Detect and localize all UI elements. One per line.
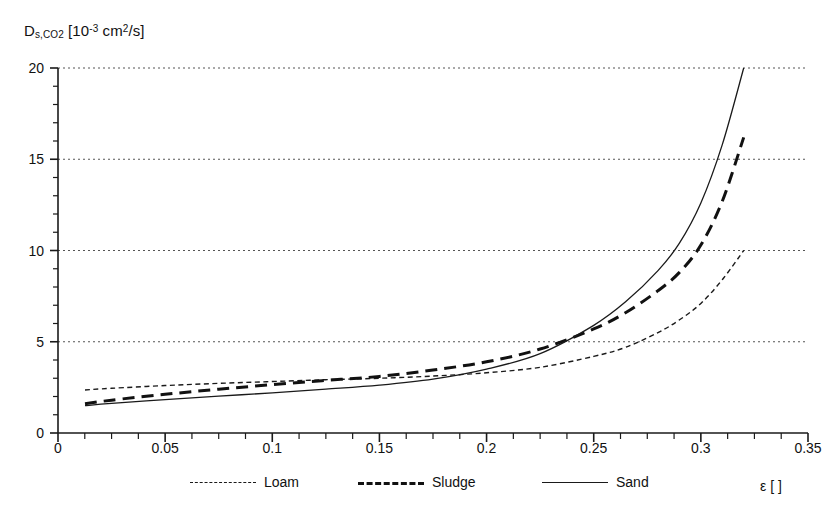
x-tick-label-0.15: 0.15: [366, 440, 393, 456]
chart-legend: Loam Sludge Sand: [190, 470, 660, 498]
x-tick-label-0.05: 0.05: [152, 440, 179, 456]
legend-label-sludge: Sludge: [432, 474, 476, 490]
plot-area: [0, 0, 839, 521]
x-axis-title: ε [ ]: [760, 478, 782, 494]
legend-label-sand: Sand: [616, 474, 649, 490]
x-tick-label-0.3: 0.3: [691, 440, 710, 456]
x-tick-label-0.1: 0.1: [263, 440, 282, 456]
y-tick-label-0: 0: [4, 425, 44, 441]
chart-figure: Ds,CO2 [10-3 cm2/s] 05101520 00.050.10.1…: [0, 0, 839, 521]
x-tick-label-0.25: 0.25: [580, 440, 607, 456]
series-line-loam: [85, 251, 744, 390]
y-tick-label-20: 20: [4, 60, 44, 76]
legend-swatch-loam-icon: [190, 477, 256, 487]
legend-swatch-sand-icon: [542, 477, 608, 487]
legend-item-sand[interactable]: Sand: [542, 470, 649, 494]
x-tick-label-0.35: 0.35: [794, 440, 821, 456]
x-tick-label-0.2: 0.2: [477, 440, 496, 456]
y-tick-label-10: 10: [4, 243, 44, 259]
series-line-sand: [85, 68, 744, 406]
x-tick-label-0: 0: [54, 440, 62, 456]
series-line-sludge: [85, 137, 744, 403]
y-tick-label-5: 5: [4, 334, 44, 350]
legend-label-loam: Loam: [264, 474, 299, 490]
y-tick-label-15: 15: [4, 151, 44, 167]
legend-swatch-sludge-icon: [358, 477, 424, 487]
legend-item-sludge[interactable]: Sludge: [358, 470, 476, 494]
legend-item-loam[interactable]: Loam: [190, 470, 299, 494]
